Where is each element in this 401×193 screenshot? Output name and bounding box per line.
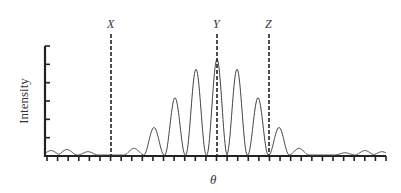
axes [44, 46, 386, 161]
marker-lines [111, 34, 269, 156]
intensity-chart [0, 0, 401, 193]
y-axis-label: Intensity [16, 71, 32, 131]
marker-z-label: Z [265, 17, 272, 32]
intensity-curve [45, 59, 386, 155]
marker-y-label: Y [213, 17, 220, 32]
marker-x-label: X [107, 17, 114, 32]
x-axis-label: θ [210, 172, 216, 188]
